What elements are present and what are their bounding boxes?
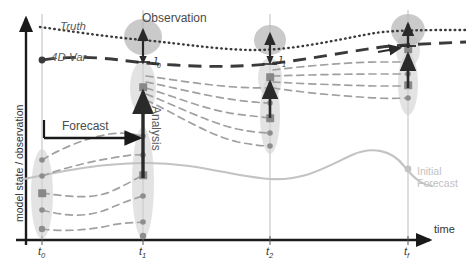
analysis-label: Analysis [150,106,162,151]
cost-function-j1-label: J1 [277,56,286,68]
diagram-canvas [0,0,469,266]
ensemble-spread-ellipses [31,33,420,239]
four-d-var-label: 4D Var [51,52,86,64]
x-tick-label-t2: t2 [266,246,273,260]
initial-forecast-label-line1: Initial [417,165,458,177]
four-d-var-start-dot [39,57,46,64]
initial-forecast-label-line2: Forecast [417,177,458,189]
forecast-label: Forecast [62,120,109,132]
x-tick-label-t1: t1 [139,246,146,260]
data-assimilation-diagram: model state / observation time t0 t1 t2 … [0,0,469,266]
initial-forecast-curve [24,150,432,186]
y-axis-label: model state / observation [14,105,25,222]
x-tick-label-t0: t0 [38,246,45,260]
x-axis-label: time [434,224,455,235]
cost-function-j0-label: J0 [152,57,161,69]
ensemble-trajectories [42,62,408,230]
initial-forecast-label: Initial Forecast [417,165,458,189]
truth-label: Truth [60,21,86,33]
observation-label: Observation [142,12,207,24]
x-tick-label-tf: tf [404,246,409,260]
initial-forecast-end-dot [405,166,412,173]
